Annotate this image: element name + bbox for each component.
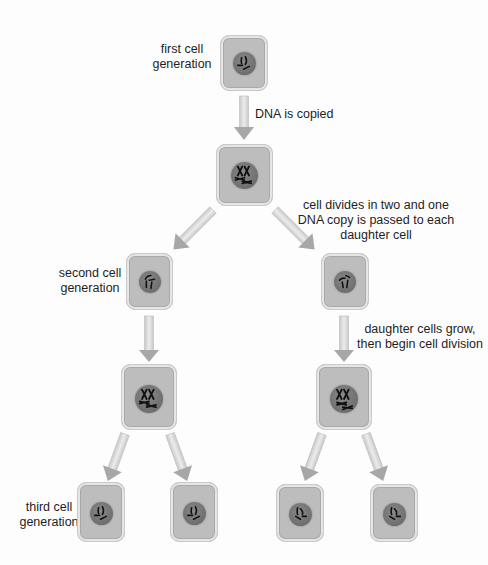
arrow-divide-3-3: [296, 431, 332, 485]
chromosomes-single-icon: [139, 271, 161, 293]
cell-gen2-left: [126, 253, 173, 310]
arrow-divide-left: [166, 203, 220, 257]
chromosomes-single-icon: [334, 271, 356, 293]
cell-division-diagram: first cell generation DNA is copied cell…: [0, 0, 488, 565]
cell-gen3-4: [370, 484, 418, 542]
nucleus: [233, 52, 256, 75]
cell-gen1-copied: [216, 144, 273, 206]
arrow-grow-left: [139, 316, 159, 362]
nucleus: [383, 503, 406, 526]
arrow-dna-copied: [234, 96, 254, 140]
nucleus: [289, 503, 312, 526]
arrow-divide-3-4: [357, 431, 393, 485]
chromosomes-duplicated-icon: [135, 385, 163, 413]
nucleus: [183, 502, 206, 525]
label-third-generation: third cell generation: [18, 500, 80, 530]
arrow-divide-3-2: [161, 431, 197, 485]
cell-gen2-left-copied: [121, 364, 177, 430]
cell-gen3-3: [276, 484, 324, 542]
nucleus: [334, 271, 356, 293]
cell-gen3-1: [77, 482, 125, 542]
chromosomes-single-icon: [383, 503, 406, 526]
label-second-generation: second cell generation: [52, 266, 128, 296]
arrow-divide-3-1: [99, 431, 135, 485]
nucleus: [135, 385, 163, 413]
label-daughter-grow: daughter cells grow, then begin cell div…: [350, 322, 488, 352]
chromosomes-duplicated-icon: [231, 162, 258, 189]
chromosomes-single-icon: [289, 503, 312, 526]
chromosomes-single-icon: [90, 502, 113, 525]
nucleus: [90, 502, 113, 525]
cell-gen1: [220, 35, 268, 91]
chromosomes-single-icon: [233, 52, 256, 75]
cell-gen2-right-copied: [316, 364, 372, 430]
nucleus: [139, 271, 161, 293]
nucleus: [231, 162, 258, 189]
cell-gen3-2: [170, 482, 218, 542]
label-dna-copied: DNA is copied: [255, 107, 334, 122]
chromosomes-duplicated-icon: [330, 385, 358, 413]
nucleus: [330, 385, 358, 413]
chromosomes-single-icon: [183, 502, 206, 525]
cell-gen2-right: [321, 253, 369, 310]
label-first-generation: first cell generation: [142, 42, 222, 72]
label-cell-divides: cell divides in two and one DNA copy is …: [286, 198, 466, 243]
